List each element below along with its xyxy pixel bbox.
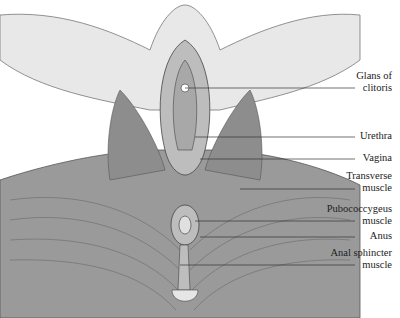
label-text: Pubococcygeus xyxy=(327,203,392,215)
label-text: Glans of xyxy=(356,70,392,82)
label-text: clitoris xyxy=(356,82,392,94)
label-text: muscle xyxy=(330,259,392,271)
label-text: Anal sphincter xyxy=(330,247,392,259)
label-text: Vagina xyxy=(363,152,392,164)
label-anal_sphincter: Anal sphinctermuscle xyxy=(330,247,392,271)
label-transverse: Transversemuscle xyxy=(346,170,392,194)
anatomy-figure: Glans ofclitorisUrethraVaginaTransversem… xyxy=(0,0,400,318)
label-vagina: Vagina xyxy=(363,152,392,164)
label-urethra: Urethra xyxy=(360,130,392,142)
label-text: Anus xyxy=(370,230,392,242)
label-text: Urethra xyxy=(360,130,392,142)
label-pubococcygeus: Pubococcygeusmuscle xyxy=(327,203,392,227)
label-text: muscle xyxy=(327,215,392,227)
label-text: muscle xyxy=(346,182,392,194)
label-anus: Anus xyxy=(370,230,392,242)
label-glans: Glans ofclitoris xyxy=(356,70,392,94)
label-text: Transverse xyxy=(346,170,392,182)
